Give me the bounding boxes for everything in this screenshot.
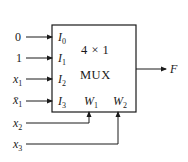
pin-i1-label: I1 bbox=[58, 52, 66, 69]
pin-w1-label: W1 bbox=[84, 95, 98, 112]
wire-w1 bbox=[26, 112, 89, 123]
signal-x1-bar-label: x̄1 bbox=[13, 94, 22, 111]
wire-w2 bbox=[26, 112, 118, 144]
signal-x1-label: x1 bbox=[13, 73, 22, 90]
pin-i0-label: I0 bbox=[58, 31, 66, 48]
signal-x3-label: x3 bbox=[13, 138, 22, 155]
pin-i2-label: I2 bbox=[58, 73, 66, 90]
pin-w2-label: W2 bbox=[113, 95, 127, 112]
mux-name-label: MUX bbox=[80, 69, 111, 82]
output-f-label: F bbox=[170, 63, 177, 75]
signal-1-label: 1 bbox=[16, 52, 22, 64]
signal-0-label: 0 bbox=[15, 31, 21, 43]
signal-x2-label: x2 bbox=[13, 117, 22, 134]
pin-i3-label: I3 bbox=[58, 95, 66, 112]
mux-size-label: 4 × 1 bbox=[81, 44, 109, 57]
